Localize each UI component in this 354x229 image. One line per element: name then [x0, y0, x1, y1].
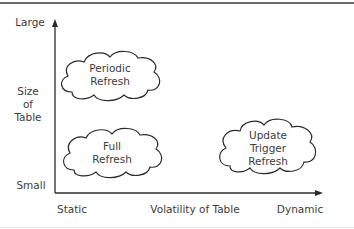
- cloud-full-line-1: Full: [82, 140, 142, 153]
- cloud-periodic-line-1: Periodic: [80, 62, 140, 75]
- y-axis-bottom-label: Small: [14, 179, 48, 192]
- cloud-update-trigger-refresh: Update Trigger Refresh: [238, 129, 298, 168]
- cloud-periodic-line-2: Refresh: [80, 75, 140, 88]
- x-axis-left-label: Static: [52, 203, 92, 216]
- y-axis-title-line-2: of: [10, 98, 46, 111]
- cloud-update-line-2: Trigger: [238, 142, 298, 155]
- y-axis-title-line-3: Table: [10, 111, 46, 124]
- cloud-full-refresh: Full Refresh: [82, 140, 142, 166]
- y-axis-top-label: Large: [13, 16, 47, 29]
- diagram-canvas: [0, 0, 354, 229]
- cloud-periodic-refresh: Periodic Refresh: [80, 62, 140, 88]
- cloud-update-line-1: Update: [238, 129, 298, 142]
- x-axis-right-label: Dynamic: [272, 203, 328, 216]
- cloud-update-line-3: Refresh: [238, 155, 298, 168]
- x-axis-title: Volatility of Table: [140, 203, 250, 216]
- y-axis-title: Size of Table: [10, 85, 46, 124]
- cloud-full-line-2: Refresh: [82, 153, 142, 166]
- y-axis-title-line-1: Size: [10, 85, 46, 98]
- x-axis-arrow-icon: [315, 190, 323, 196]
- y-axis-arrow-icon: [52, 19, 58, 27]
